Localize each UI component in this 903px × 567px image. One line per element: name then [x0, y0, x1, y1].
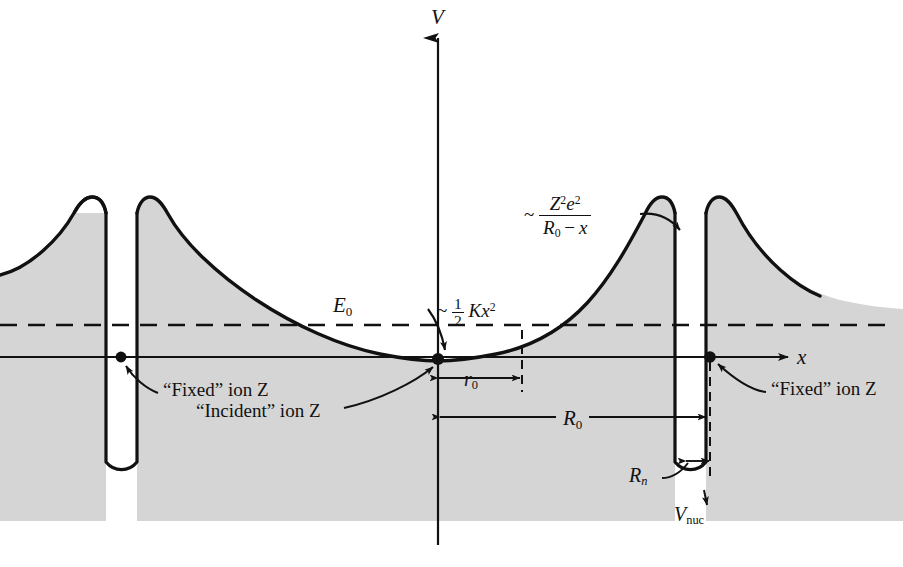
coulomb-e-exp: 2	[575, 194, 581, 207]
incident-ion-label: “Incident” ion Z	[196, 400, 321, 422]
energy-level-sub: 0	[346, 304, 353, 319]
coulomb-x: x	[579, 217, 587, 238]
harmonic-formula-label: ~ 1 2 Kx2	[437, 296, 496, 330]
coulomb-z: Z	[550, 193, 561, 214]
harmonic-x-exp: 2	[490, 301, 496, 314]
r0-label: r0	[464, 368, 478, 393]
energy-level-label: E0	[333, 293, 352, 320]
Rn-base: R	[629, 464, 641, 486]
coulomb-e: e	[566, 193, 574, 214]
fixed-ion-left-label: “Fixed” ion Z	[163, 379, 269, 401]
coulomb-r-sub: 0	[555, 228, 561, 241]
fixed-ion-right-dot	[704, 351, 716, 363]
potential-diagram-svg	[0, 0, 903, 567]
x-axis-label: x	[797, 345, 806, 370]
coulomb-r: R	[543, 217, 555, 238]
harmonic-half: 1 2	[452, 296, 464, 330]
vnuc-sub: nuc	[686, 513, 704, 527]
harmonic-half-num: 1	[452, 296, 464, 313]
fixed-ion-left-dot	[116, 352, 127, 363]
vnuc-label: Vnuc	[674, 503, 704, 528]
coulomb-denominator: R0 − x	[539, 216, 591, 240]
fixed-ion-right-label: “Fixed” ion Z	[771, 378, 877, 400]
Rn-sub: n	[641, 474, 647, 488]
r0-base: r	[464, 368, 472, 390]
coulomb-fraction: Z2e2 R0 − x	[539, 193, 591, 241]
coulomb-tilde: ~	[524, 204, 534, 225]
figure-canvas: V x E0 r0 R0 Rn Vnuc “Fixed” ion Z “Fixe…	[0, 0, 903, 567]
harmonic-k: K	[469, 300, 482, 321]
Rn-label: Rn	[629, 464, 647, 489]
coulomb-minus: −	[564, 217, 575, 238]
harmonic-tilde: ~	[437, 300, 447, 321]
harmonic-half-den: 2	[452, 313, 464, 329]
incident-ion-dot	[432, 353, 444, 365]
R0-base: R	[563, 406, 576, 430]
R0-sub: 0	[576, 417, 583, 432]
R0-label: R0	[556, 406, 589, 433]
harmonic-x: x	[481, 300, 489, 321]
coulomb-formula-label: ~ Z2e2 R0 − x	[524, 193, 591, 241]
r0-sub: 0	[472, 378, 478, 392]
vnuc-base: V	[674, 503, 686, 525]
coulomb-numerator: Z2e2	[539, 193, 591, 216]
energy-level-base: E	[333, 293, 346, 317]
v-axis-label: V	[431, 5, 444, 30]
